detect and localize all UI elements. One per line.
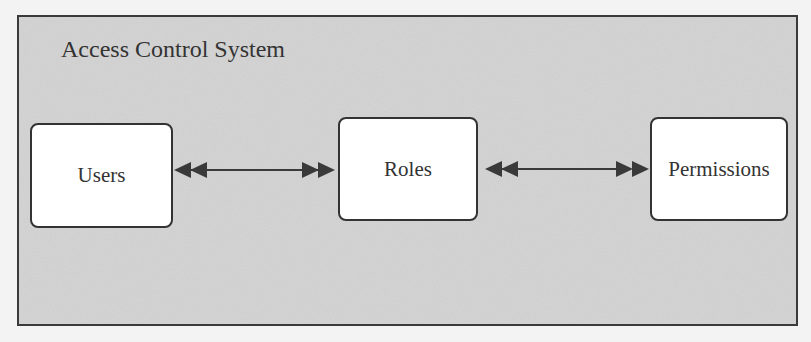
node-users-label: Users bbox=[78, 163, 126, 188]
node-permissions: Permissions bbox=[650, 117, 788, 221]
diagram-title: Access Control System bbox=[61, 36, 285, 63]
node-roles-label: Roles bbox=[384, 157, 432, 182]
node-permissions-label: Permissions bbox=[668, 157, 770, 182]
node-roles: Roles bbox=[338, 117, 478, 221]
node-users: Users bbox=[30, 123, 173, 228]
